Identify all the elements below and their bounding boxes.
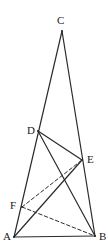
- vertex-label-a: A: [3, 231, 11, 242]
- vertex-point-f: [21, 206, 23, 208]
- segment-DE: [38, 131, 82, 160]
- segment-FB-dashed: [22, 207, 95, 236]
- vertex-label-d: D: [27, 125, 35, 136]
- segment-AE: [14, 160, 82, 237]
- vertex-point-e: [81, 159, 83, 161]
- vertex-label-b: B: [99, 231, 106, 242]
- geometry-canvas: [0, 0, 108, 249]
- vertex-point-a: [13, 236, 15, 238]
- geometry-figure: CDEFAB: [0, 0, 108, 249]
- segment-FE-dashed: [22, 160, 82, 207]
- segment-AB: [14, 236, 95, 237]
- vertex-point-c: [61, 30, 63, 32]
- vertex-point-b: [94, 235, 96, 237]
- vertex-label-f: F: [10, 200, 16, 211]
- vertex-label-e: E: [87, 154, 94, 165]
- segment-CA: [14, 31, 62, 237]
- vertex-label-c: C: [57, 15, 64, 26]
- vertex-point-d: [37, 130, 39, 132]
